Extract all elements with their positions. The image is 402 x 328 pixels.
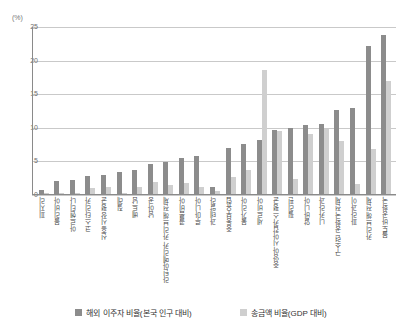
x-axis-label: 중동부유럽 (227, 197, 234, 232)
y-axis-unit-label: (%) (12, 14, 23, 21)
x-axis-label-cell: 루마니아 (191, 197, 207, 305)
bar-group (52, 27, 68, 194)
x-axis-label-cell: 카리브해 전체 (363, 197, 379, 305)
bar-series-1 (246, 170, 251, 194)
x-axis-label: 베트남 (133, 197, 140, 218)
x-axis-label: 세르비아 (258, 197, 265, 225)
x-axis-label-cell: 칠레 (113, 197, 129, 305)
x-axis-label: 구소련 공화국 전체 (336, 197, 343, 256)
x-axis-label: 신흥시장 평균 (102, 197, 109, 240)
x-axis-label-cell: 필리핀 (285, 197, 301, 305)
bar-series-1 (153, 182, 158, 194)
x-axis-label: 파라과이 (352, 197, 359, 225)
x-axis-label: 루마니아 (196, 197, 203, 225)
bar-series-1 (75, 193, 80, 194)
x-axis-label: 과테말라 (211, 197, 218, 225)
x-axis-label: 라틴아메리카 카리브해 전체 (164, 197, 171, 283)
legend-label: 해외 이주자 비율(본국 인구 대비) (86, 307, 191, 318)
x-axis-label: 필리핀 (289, 197, 296, 218)
bar-series-1 (199, 187, 204, 194)
x-axis-label-cell: 신흥시장 평균 (97, 197, 113, 305)
x-axis-label-cell: 코스타리카 (82, 197, 98, 305)
x-axis-label: 볼리비아 (55, 197, 62, 225)
bar-group (129, 27, 145, 194)
bar-series-1 (168, 185, 173, 194)
bar-series-1 (277, 131, 282, 194)
x-axis-label: 불가리아 (242, 197, 249, 225)
x-axis-label: 니카라과 (320, 197, 327, 225)
x-axis-label: 알바니아 (305, 197, 312, 225)
x-axis-label-cell: 파라과이 (347, 197, 363, 305)
chart-legend: 해외 이주자 비율(본국 인구 대비)송금액 비율(GDP 대비) (0, 307, 402, 318)
x-axis-label-cell: 피지리 (35, 197, 51, 305)
x-axis-label-cell: 과테말라 (207, 197, 223, 305)
bar-series-1 (122, 193, 127, 194)
bar-series-0 (117, 172, 122, 194)
legend-item[interactable]: 해외 이주자 비율(본국 인구 대비) (75, 307, 191, 318)
bar-group (347, 27, 363, 194)
bar-group (363, 27, 379, 194)
x-axis-label-cell: 라틴아메리카 카리브해 전체 (160, 197, 176, 305)
bar-group (254, 27, 270, 194)
bar-groups (33, 27, 396, 194)
legend-label: 송금액 비율(GDP 대비) (251, 307, 327, 318)
bar-group (285, 27, 301, 194)
dark-gray-swatch (75, 309, 82, 316)
bar-group (114, 27, 130, 194)
x-axis-label-cell: 볼리비아 (51, 197, 67, 305)
bar-series-0 (70, 180, 75, 194)
bar-series-1 (137, 187, 142, 194)
bar-group (192, 27, 208, 194)
x-axis-label-cell: 몰도바공화국 (378, 197, 394, 305)
bar-series-1 (339, 141, 344, 194)
bar-group (98, 27, 114, 194)
bar-group (83, 27, 99, 194)
bar-group (316, 27, 332, 194)
bar-chart: (%) 0510152025 피지리볼리비아아르헨티나코스타리카신흥시장 평균칠… (0, 0, 402, 328)
x-axis-label: 남아공 (149, 197, 156, 218)
x-axis-labels: 피지리볼리비아아르헨티나코스타리카신흥시장 평균칠레베트남남아공라틴아메리카 카… (32, 197, 396, 305)
bar-series-1 (324, 129, 329, 194)
bar-series-1 (90, 188, 95, 194)
x-axis-label-cell: 아르헨티나 (66, 197, 82, 305)
x-axis-label-cell: 중동부유럽 (222, 197, 238, 305)
x-axis-label: 몰도바공화국 (383, 197, 390, 238)
bar-series-1 (386, 81, 391, 194)
legend-item[interactable]: 송금액 비율(GDP 대비) (240, 307, 327, 318)
bar-group (238, 27, 254, 194)
bar-series-1 (308, 134, 313, 194)
bar-group (378, 27, 394, 194)
bar-group (67, 27, 83, 194)
x-axis-line (32, 194, 396, 195)
bar-series-1 (59, 193, 64, 194)
bar-series-1 (231, 177, 236, 194)
bar-series-1 (293, 179, 298, 194)
bar-group (269, 27, 285, 194)
x-axis-label-cell: 베트남 (129, 197, 145, 305)
bar-group (145, 27, 161, 194)
plot-area: 0510152025 (32, 27, 396, 195)
bar-group (161, 27, 177, 194)
light-gray-swatch (240, 309, 247, 316)
bar-series-0 (350, 108, 355, 194)
x-axis-label-cell: 세르비아 (254, 197, 270, 305)
bar-group (36, 27, 52, 194)
bar-series-1 (106, 187, 111, 194)
x-axis-label: 중앙아시아캅카스 평균 (274, 197, 281, 268)
bar-series-1 (44, 193, 49, 194)
x-axis-label: 콜롬비아 (180, 197, 187, 225)
x-axis-label-cell: 콜롬비아 (175, 197, 191, 305)
bar-group (207, 27, 223, 194)
bar-group (223, 27, 239, 194)
x-axis-label-cell: 니카라과 (316, 197, 332, 305)
x-axis-label: 카리브해 전체 (367, 197, 374, 240)
x-axis-label: 코스타리카 (86, 197, 93, 232)
bar-series-1 (262, 70, 267, 194)
x-axis-label-cell: 불가리아 (238, 197, 254, 305)
bar-group (332, 27, 348, 194)
x-axis-label: 칠레 (118, 197, 125, 211)
x-axis-label-cell: 구소련 공화국 전체 (332, 197, 348, 305)
x-axis-label: 피지리 (40, 197, 47, 218)
x-axis-label: 아르헨티나 (71, 197, 78, 232)
bar-group (176, 27, 192, 194)
